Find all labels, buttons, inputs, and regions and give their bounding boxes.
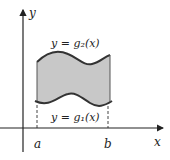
lower-curve-label: y = g₁(x)	[50, 111, 100, 124]
x-axis-label: x	[154, 135, 161, 149]
bound-label-b: b	[104, 137, 112, 151]
bound-label-a: a	[34, 137, 41, 151]
y-axis-label: y	[28, 6, 36, 20]
shaded-region	[37, 52, 110, 106]
region-diagram: y x y = g₂(x) y = g₁(x) a b	[0, 0, 170, 160]
upper-curve-label: y = g₂(x)	[50, 37, 100, 50]
diagram-canvas: y x y = g₂(x) y = g₁(x) a b	[0, 0, 170, 160]
